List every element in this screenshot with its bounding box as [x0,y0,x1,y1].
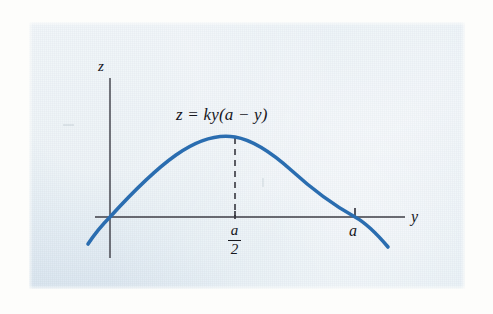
plot-svg [0,0,493,314]
curve-equation-label: z = ky(a − y) [176,106,268,123]
fraction-denominator: 2 [229,241,241,258]
z-axis-label: z [98,59,104,74]
fraction-numerator: a [229,223,241,240]
y-axis-label: y [411,209,418,225]
figure-container: z y z = ky(a − y) a 2 a [0,0,493,314]
tick-label-half-a: a 2 [228,223,241,258]
tick-label-a: a [349,223,357,239]
